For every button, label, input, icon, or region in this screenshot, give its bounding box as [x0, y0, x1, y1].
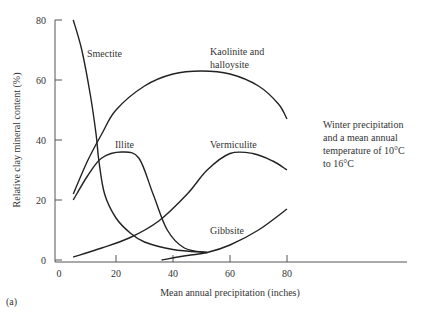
y-tick-label: 20: [36, 195, 46, 206]
curve-labels: SmectiteKaolinite andhalloysiteIlliteVer…: [87, 46, 264, 236]
annotation-note: Winter precipitation and a mean annual t…: [323, 118, 423, 170]
note-line: Winter precipitation: [323, 118, 423, 131]
y-axis-title: Relative clay mineral content (%): [11, 73, 23, 208]
note-line: and a mean annual: [323, 131, 423, 144]
curve-kaolinite-and-halloysite: [73, 71, 287, 194]
x-tick-label: 20: [111, 268, 121, 279]
label-vermiculite: Vermiculite: [210, 139, 257, 150]
label-smectite: Smectite: [87, 48, 123, 59]
label-kaolinite-and-halloysite: halloysite: [210, 59, 249, 70]
x-axis-title: Mean annual precipitation (inches): [160, 287, 300, 299]
curve-illite: [73, 152, 207, 253]
label-gibbsite: Gibbsite: [210, 225, 244, 236]
y-tick-label: 60: [36, 75, 46, 86]
note-line: temperature of 10°C: [323, 144, 423, 157]
y-tick-label: 0: [41, 255, 46, 266]
label-illite: Illite: [115, 139, 134, 150]
x-tick-label: 60: [225, 268, 235, 279]
x-tick-label: 0: [57, 268, 62, 279]
note-line: to 16°C: [323, 157, 423, 170]
label-kaolinite-and-halloysite: Kaolinite and: [210, 46, 264, 57]
curve-vermiculite: [73, 152, 287, 257]
panel-label: (a): [6, 296, 17, 307]
x-tick-label: 40: [168, 268, 178, 279]
y-tick-label: 40: [36, 135, 46, 146]
y-tick-label: 80: [36, 15, 46, 26]
x-tick-label: 80: [282, 268, 292, 279]
